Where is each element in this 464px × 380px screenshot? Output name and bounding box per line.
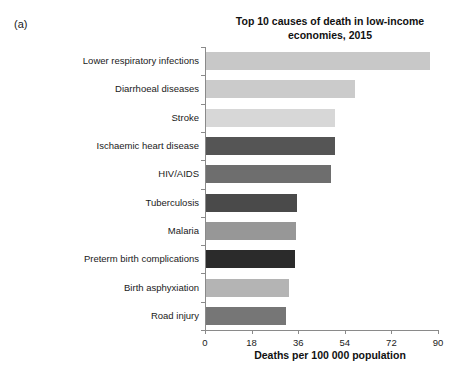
y-axis-tick: [201, 47, 205, 48]
bar-row: Diarrhoeal diseases: [206, 80, 355, 98]
x-axis-tick: [205, 330, 206, 334]
plot-area: Lower respiratory infectionsDiarrhoeal d…: [205, 47, 438, 330]
category-label: Birth asphyxiation: [124, 281, 199, 295]
bar-row: HIV/AIDS: [206, 165, 331, 183]
x-axis-tick-label: 18: [232, 337, 272, 348]
x-axis-tick: [345, 330, 346, 334]
bar: [206, 52, 430, 70]
panel-letter: (a): [14, 18, 27, 30]
y-axis-tick: [201, 160, 205, 161]
y-axis-tick: [201, 104, 205, 105]
x-axis-tick-label: 36: [278, 337, 318, 348]
category-label: Ischaemic heart disease: [97, 139, 199, 153]
y-axis-tick: [201, 273, 205, 274]
bar-row: Malaria: [206, 222, 296, 240]
x-axis-title: Deaths per 100 000 population: [196, 349, 464, 361]
x-axis-tick: [438, 330, 439, 334]
x-axis-tick-label: 0: [185, 337, 225, 348]
bar: [206, 165, 331, 183]
category-label: Preterm birth complications: [84, 252, 199, 266]
category-label: Diarrhoeal diseases: [115, 82, 199, 96]
x-axis-tick: [391, 330, 392, 334]
category-label: HIV/AIDS: [158, 167, 199, 181]
bar: [206, 194, 297, 212]
x-axis-tick: [298, 330, 299, 334]
category-label: Road injury: [151, 309, 199, 323]
category-label: Stroke: [172, 111, 199, 125]
bar: [206, 250, 295, 268]
x-axis-line: [205, 330, 438, 331]
y-axis-tick: [201, 245, 205, 246]
x-axis-tick-label: 72: [371, 337, 411, 348]
bar: [206, 222, 296, 240]
bar-row: Lower respiratory infections: [206, 52, 430, 70]
x-axis-tick: [252, 330, 253, 334]
chart-title-line-1: Top 10 causes of death in low-income: [196, 14, 464, 28]
bar-row: Birth asphyxiation: [206, 279, 289, 297]
x-axis-tick-label: 90: [418, 337, 458, 348]
bar-row: Stroke: [206, 109, 335, 127]
bar: [206, 109, 335, 127]
bar: [206, 137, 335, 155]
chart-title-line-2: economies, 2015: [196, 28, 464, 42]
y-axis-tick: [201, 132, 205, 133]
bar: [206, 307, 286, 325]
y-axis-tick: [201, 189, 205, 190]
category-label: Malaria: [168, 224, 199, 238]
category-label: Lower respiratory infections: [83, 54, 199, 68]
chart-title: Top 10 causes of death in low-income eco…: [196, 14, 464, 42]
x-axis-tick-label: 54: [325, 337, 365, 348]
y-axis-tick: [201, 75, 205, 76]
bar-row: Ischaemic heart disease: [206, 137, 335, 155]
category-label: Tuberculosis: [145, 196, 199, 210]
bar-row: Preterm birth complications: [206, 250, 295, 268]
bar-row: Tuberculosis: [206, 194, 297, 212]
figure-panel-a: (a) Top 10 causes of death in low-income…: [0, 0, 464, 380]
y-axis-tick: [201, 302, 205, 303]
bar: [206, 80, 355, 98]
y-axis-tick: [201, 217, 205, 218]
bar: [206, 279, 289, 297]
bar-row: Road injury: [206, 307, 286, 325]
